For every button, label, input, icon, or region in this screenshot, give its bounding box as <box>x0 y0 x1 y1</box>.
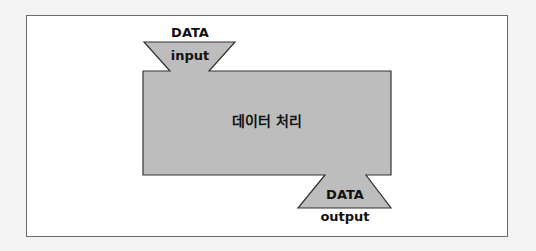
process-label: 데이터 처리 <box>143 114 391 128</box>
output-data-label: DATA <box>315 188 375 201</box>
output-label: output <box>310 210 380 223</box>
input-label: input <box>160 49 220 62</box>
input-data-label: DATA <box>160 26 220 39</box>
